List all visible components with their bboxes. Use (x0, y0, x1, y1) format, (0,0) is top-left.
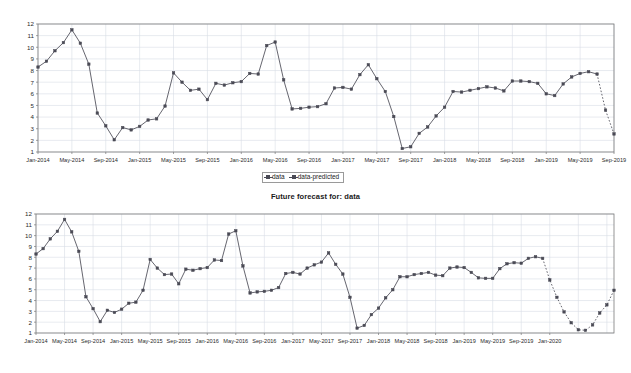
svg-text:6: 6 (31, 90, 35, 97)
svg-text:2: 2 (29, 319, 33, 326)
svg-text:Sep-2016: Sep-2016 (297, 157, 321, 163)
svg-text:Jan-2017: Jan-2017 (281, 338, 304, 344)
svg-text:May-2017: May-2017 (364, 157, 389, 163)
svg-text:4: 4 (29, 297, 33, 304)
svg-text:May-2019: May-2019 (568, 157, 593, 163)
svg-text:Sep-2019: Sep-2019 (509, 338, 533, 344)
svg-text:Jan-2016: Jan-2016 (196, 338, 219, 344)
svg-text:Sep-2018: Sep-2018 (423, 338, 447, 344)
svg-text:11: 11 (28, 32, 35, 39)
svg-text:May-2015: May-2015 (138, 338, 163, 344)
svg-text:May-2016: May-2016 (263, 157, 288, 163)
svg-text:10: 10 (27, 44, 34, 51)
svg-text:May-2014: May-2014 (52, 338, 77, 344)
svg-text:Jan-2019: Jan-2019 (452, 338, 475, 344)
svg-text:8: 8 (29, 254, 33, 261)
svg-text:May-2019: May-2019 (480, 338, 505, 344)
svg-text:Sep-2014: Sep-2014 (81, 338, 105, 344)
svg-text:2: 2 (31, 137, 35, 144)
svg-text:May-2015: May-2015 (161, 157, 186, 163)
chart-1-legend: data data-predicted (262, 172, 344, 183)
svg-text:8: 8 (31, 67, 35, 74)
svg-text:7: 7 (29, 264, 33, 271)
svg-text:May-2016: May-2016 (223, 338, 248, 344)
svg-text:12: 12 (27, 20, 34, 27)
svg-text:Sep-2017: Sep-2017 (399, 157, 423, 163)
square-marker-icon (292, 175, 296, 179)
svg-text:Sep-2015: Sep-2015 (195, 157, 219, 163)
svg-text:12: 12 (25, 210, 32, 217)
legend-entry-data-predicted: data-predicted (292, 174, 340, 181)
svg-text:Sep-2014: Sep-2014 (94, 157, 118, 163)
svg-text:4: 4 (31, 113, 35, 120)
svg-text:Sep-2018: Sep-2018 (500, 157, 524, 163)
svg-text:Sep-2019: Sep-2019 (602, 157, 626, 163)
svg-text:9: 9 (29, 243, 33, 250)
svg-text:Sep-2017: Sep-2017 (338, 338, 362, 344)
svg-text:Jan-2017: Jan-2017 (331, 157, 354, 163)
chart-1-svg: 123456789101112Jan-2014May-2014Sep-2014J… (0, 0, 631, 188)
legend-entry-data: data (266, 174, 285, 181)
svg-text:Jan-2019: Jan-2019 (535, 157, 558, 163)
svg-text:5: 5 (29, 286, 33, 293)
chart-2-canvas: 123456789101112Jan-2014May-2014Sep-2014J… (0, 200, 631, 373)
legend-label-data-predicted: data-predicted (298, 174, 340, 181)
svg-text:Jan-2014: Jan-2014 (24, 338, 47, 344)
svg-text:7: 7 (31, 79, 35, 86)
svg-text:6: 6 (29, 275, 33, 282)
svg-text:Sep-2016: Sep-2016 (252, 338, 276, 344)
forecast-chart-future: Future forecast for: data 12345678910111… (0, 200, 631, 373)
chart-2-svg: 123456789101112Jan-2014May-2014Sep-2014J… (0, 200, 631, 373)
svg-text:3: 3 (29, 308, 33, 315)
legend-label-data: data (272, 174, 285, 181)
svg-text:Jan-2015: Jan-2015 (110, 338, 133, 344)
svg-text:May-2018: May-2018 (395, 338, 420, 344)
svg-text:10: 10 (25, 232, 32, 239)
svg-text:Jan-2014: Jan-2014 (26, 157, 49, 163)
svg-text:May-2018: May-2018 (466, 157, 491, 163)
svg-text:5: 5 (31, 102, 35, 109)
svg-text:11: 11 (26, 221, 33, 228)
svg-text:9: 9 (31, 55, 35, 62)
square-marker-icon (266, 175, 270, 179)
svg-text:May-2017: May-2017 (309, 338, 334, 344)
svg-text:Jan-2018: Jan-2018 (367, 338, 390, 344)
svg-text:Jan-2020: Jan-2020 (538, 338, 561, 344)
svg-text:Jan-2018: Jan-2018 (433, 157, 456, 163)
forecast-chart-historical: 123456789101112Jan-2014May-2014Sep-2014J… (0, 0, 631, 188)
svg-text:Jan-2016: Jan-2016 (230, 157, 253, 163)
svg-text:1: 1 (31, 148, 35, 155)
svg-text:Jan-2015: Jan-2015 (128, 157, 151, 163)
chart-1-canvas: 123456789101112Jan-2014May-2014Sep-2014J… (0, 0, 631, 192)
svg-text:3: 3 (31, 125, 35, 132)
svg-text:Sep-2015: Sep-2015 (167, 338, 191, 344)
svg-text:1: 1 (29, 329, 33, 336)
svg-text:May-2014: May-2014 (59, 157, 84, 163)
